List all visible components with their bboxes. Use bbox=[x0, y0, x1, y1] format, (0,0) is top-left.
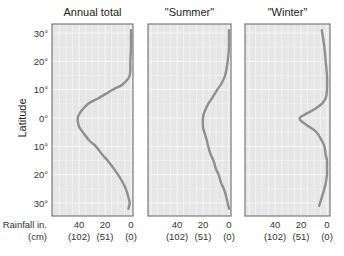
panel-title: Annual total bbox=[63, 6, 121, 18]
panel-title: "Summer" bbox=[165, 6, 214, 18]
x-tick-label-cm: (51) bbox=[293, 231, 310, 242]
panel-1: Annual total40(102)20(51)0(0) bbox=[52, 6, 137, 242]
x-axis-label-inches: Rainfall in. bbox=[3, 219, 47, 230]
panel-2: "Summer"40(102)20(51)0(0) bbox=[148, 6, 235, 242]
panel-background bbox=[245, 24, 330, 216]
panel-background bbox=[52, 24, 133, 216]
x-tick-label: 20 bbox=[100, 219, 111, 230]
panel-background bbox=[148, 24, 231, 216]
y-tick-label: 0° bbox=[39, 113, 48, 124]
x-tick-label: 40 bbox=[270, 219, 281, 230]
x-tick-label: 0 bbox=[128, 219, 133, 230]
x-tick-label: 40 bbox=[74, 219, 85, 230]
y-tick-label: 10° bbox=[34, 141, 49, 152]
y-tick-label: 20° bbox=[34, 169, 49, 180]
panel-title: "Winter" bbox=[268, 6, 308, 18]
y-axis-label: Latitude bbox=[16, 98, 28, 137]
x-tick-label-cm: (0) bbox=[321, 231, 333, 242]
x-tick-label-cm: (102) bbox=[264, 231, 286, 242]
x-tick-label-cm: (51) bbox=[97, 231, 114, 242]
x-tick-label: 0 bbox=[226, 219, 231, 230]
x-tick-label: 20 bbox=[296, 219, 307, 230]
x-tick-label: 40 bbox=[172, 219, 183, 230]
rainfall-latitude-chart: Annual total40(102)20(51)0(0)"Summer"40(… bbox=[0, 0, 344, 256]
x-tick-label-cm: (102) bbox=[166, 231, 188, 242]
y-tick-label: 30° bbox=[34, 28, 49, 39]
x-tick-label-cm: (102) bbox=[68, 231, 90, 242]
x-tick-label-cm: (51) bbox=[195, 231, 212, 242]
x-tick-label: 0 bbox=[324, 219, 329, 230]
y-tick-label: 10° bbox=[34, 84, 49, 95]
x-tick-label: 20 bbox=[198, 219, 209, 230]
y-tick-label: 20° bbox=[34, 56, 49, 67]
x-axis-label-cm: (cm) bbox=[28, 231, 47, 242]
panel-3: "Winter"40(102)20(51)0(0) bbox=[245, 6, 333, 242]
x-tick-label-cm: (0) bbox=[125, 231, 137, 242]
y-tick-label: 30° bbox=[34, 198, 49, 209]
x-tick-label-cm: (0) bbox=[223, 231, 235, 242]
